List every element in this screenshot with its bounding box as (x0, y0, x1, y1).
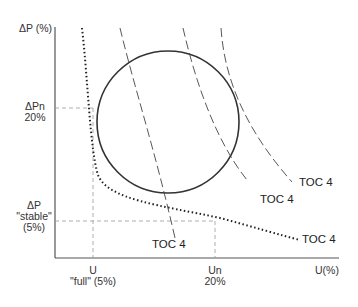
operating-region-circle (97, 51, 239, 193)
toc-label-4: TOC 4 (302, 234, 336, 245)
u-full-label: U "full" (5%) (62, 265, 124, 287)
toc-label-3: TOC 4 (299, 177, 333, 188)
y-axis-label: ΔP (%) (19, 23, 52, 34)
x-axis-label: U(%) (315, 265, 339, 276)
toc-label-1: TOC 4 (152, 239, 186, 250)
delta-pn-value: 20% (20, 112, 50, 123)
toc-curve-3 (221, 28, 292, 182)
diagram-canvas (0, 0, 358, 307)
delta-p-stable-value: (5%) (14, 222, 54, 233)
un-value: 20% (200, 276, 230, 287)
delta-pn-label: ΔPn 20% (20, 101, 50, 123)
un-label: Un 20% (200, 265, 230, 287)
toc-label-2: TOC 4 (260, 194, 294, 205)
toc-curve-1 (120, 28, 175, 238)
delta-p-stable-label: ΔP "stable" (5%) (14, 200, 54, 233)
u-full-value: "full" (5%) (62, 276, 124, 287)
